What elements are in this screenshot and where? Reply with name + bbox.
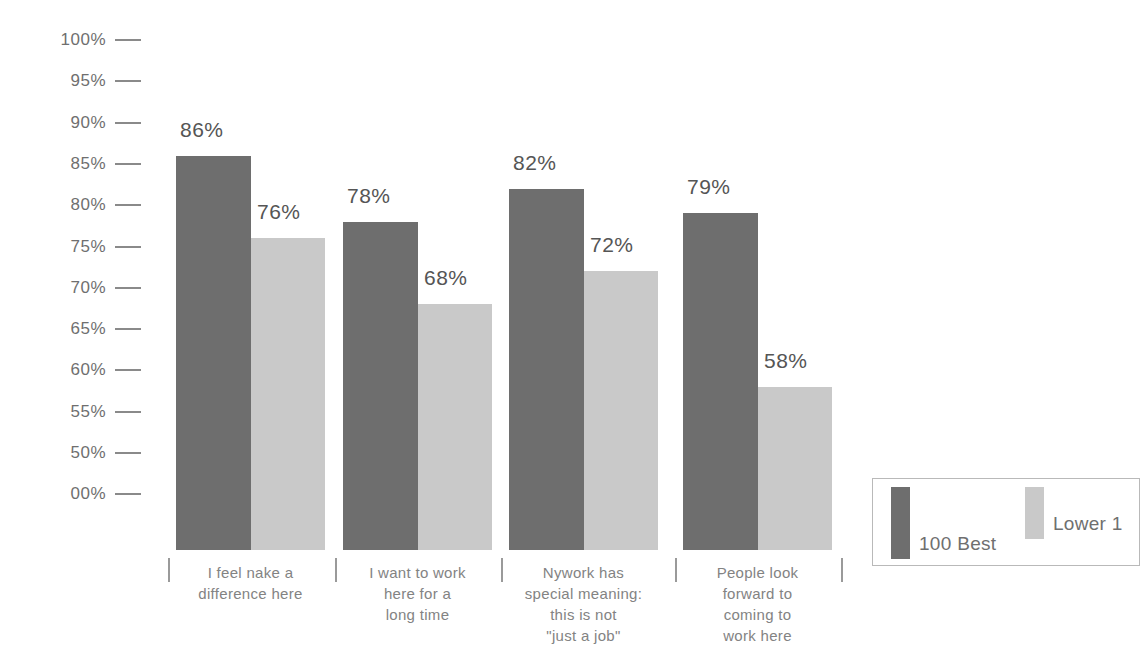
bar-lower-group xyxy=(251,238,325,550)
bar-100-best xyxy=(343,222,418,550)
bar-value-label: 68% xyxy=(424,266,468,290)
legend-label: Lower 1 xyxy=(1053,514,1123,533)
legend-swatch xyxy=(1025,487,1044,539)
legend-item: Lower 1 xyxy=(1025,487,1123,539)
legend-swatch xyxy=(891,487,910,559)
legend-item: 100 Best xyxy=(891,487,996,559)
bar-100-best xyxy=(176,156,251,550)
bar-lower-group xyxy=(418,304,492,550)
bar-100-best xyxy=(509,189,584,550)
bar-value-label: 86% xyxy=(180,118,224,142)
bar-value-label: 82% xyxy=(513,151,557,175)
chart-legend: 100 BestLower 1 xyxy=(872,478,1140,566)
x-axis-category-label: I want to work here for a long time xyxy=(321,562,514,625)
bar-value-label: 58% xyxy=(764,349,808,373)
x-axis-category-label: I feel nake a difference here xyxy=(154,562,347,604)
x-axis-category-label: People look forward to coming to work he… xyxy=(661,562,854,646)
bar-value-label: 78% xyxy=(347,184,391,208)
bar-100-best xyxy=(683,213,758,550)
legend-label: 100 Best xyxy=(919,534,996,553)
bar-value-label: 72% xyxy=(590,233,634,257)
bar-lower-group xyxy=(584,271,658,550)
x-axis-category-label: Nywork has special meaning: this is not … xyxy=(487,562,680,646)
bar-value-label: 79% xyxy=(687,175,731,199)
bar-value-label: 76% xyxy=(257,200,301,224)
bar-lower-group xyxy=(758,387,832,550)
plot-area: 86%76%78%68%82%72%79%58% xyxy=(0,0,1121,550)
